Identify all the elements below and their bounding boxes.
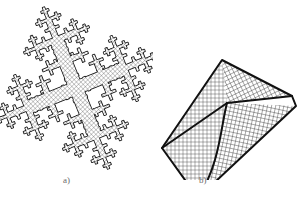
panel-a-caption: a) [63,175,70,185]
panel-b-block-mesh [150,0,307,180]
panel-a-fractal-dendrite [0,0,153,180]
fractal-mesh-body [0,0,153,180]
figure-container: a) b) [0,0,307,201]
panel-b-caption: b) [199,175,207,185]
